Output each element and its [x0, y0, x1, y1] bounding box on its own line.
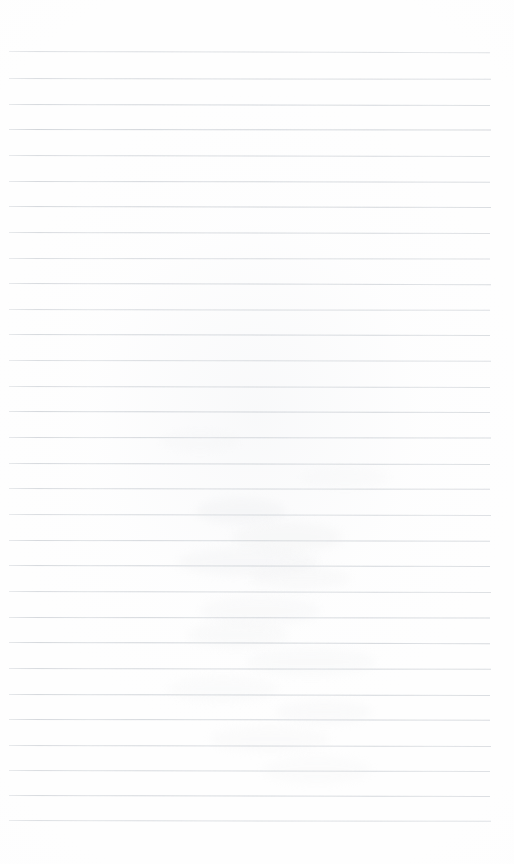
- ruled-line: [9, 360, 491, 362]
- ruled-line: [9, 437, 491, 439]
- ruled-line: [9, 78, 491, 80]
- ruled-line: [9, 129, 491, 131]
- ruled-line: [9, 820, 491, 822]
- ruled-line: [9, 642, 490, 644]
- ruled-line: [9, 488, 490, 490]
- ruled-line: [9, 591, 491, 593]
- ruled-line: [9, 232, 490, 234]
- ruled-line: [9, 617, 490, 619]
- ruled-line: [9, 719, 490, 721]
- ruled-line: [9, 411, 490, 413]
- ruled-line: [9, 104, 490, 106]
- ruled-line: [9, 745, 491, 747]
- ruled-line: [9, 283, 491, 285]
- ruled-line: [9, 309, 490, 311]
- ruled-lines-layer: [0, 0, 514, 864]
- ruled-line: [9, 463, 490, 465]
- ruled-line: [9, 334, 490, 336]
- ruled-line: [9, 206, 491, 208]
- ruled-line: [9, 540, 490, 542]
- ruled-line: [9, 155, 490, 157]
- scanned-page: [0, 0, 514, 864]
- ruled-line: [9, 51, 490, 53]
- ruled-line: [9, 694, 490, 696]
- ruled-line: [9, 668, 491, 670]
- ruled-line: [9, 181, 490, 183]
- ruled-line: [9, 795, 490, 797]
- ruled-line: [9, 565, 490, 567]
- ruled-line: [9, 770, 490, 772]
- ruled-line: [9, 386, 490, 388]
- ruled-line: [9, 258, 490, 260]
- ruled-line: [9, 514, 491, 516]
